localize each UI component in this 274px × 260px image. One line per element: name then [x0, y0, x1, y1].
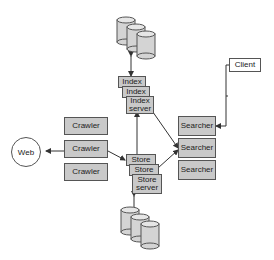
store-label: Store: [131, 156, 150, 164]
crawler-node: Crawler: [64, 117, 108, 135]
store-server-node: Store server: [132, 174, 162, 194]
crawler-node: Crawler: [64, 163, 108, 181]
top-database-cluster: [117, 17, 155, 59]
crawler-store-link: [108, 151, 125, 160]
search-architecture-diagram: Web Crawler Crawler Crawler Index Index …: [0, 0, 274, 260]
index-server-node: Index server: [126, 96, 154, 114]
client-node: Client: [229, 58, 261, 72]
web-label: Web: [18, 148, 34, 157]
index-label: Index: [122, 78, 142, 86]
crawler-label: Crawler: [72, 122, 100, 130]
searcher-node: Searcher: [178, 138, 216, 158]
store-label: Store: [134, 166, 153, 174]
index-label: Index: [126, 88, 146, 96]
index-server-label: Index server: [129, 97, 151, 113]
database-icon: [141, 221, 159, 249]
web-node: Web: [11, 137, 41, 167]
searcher-label: Searcher: [181, 144, 213, 152]
searcher-node: Searcher: [178, 116, 216, 136]
database-icon: [137, 31, 155, 59]
bottom-database-cluster: [121, 207, 159, 249]
crawler-label: Crawler: [72, 168, 100, 176]
store-server-label: Store server: [136, 176, 158, 192]
client-searcher-link: [216, 96, 228, 126]
crawler-label: Crawler: [72, 145, 100, 153]
searcher-label: Searcher: [181, 166, 213, 174]
connectors: [0, 0, 274, 260]
searcher-node: Searcher: [178, 160, 216, 180]
searcher-label: Searcher: [181, 122, 213, 130]
crawler-node: Crawler: [64, 140, 108, 158]
store-searcher-link: [158, 150, 178, 168]
client-label: Client: [235, 61, 255, 69]
